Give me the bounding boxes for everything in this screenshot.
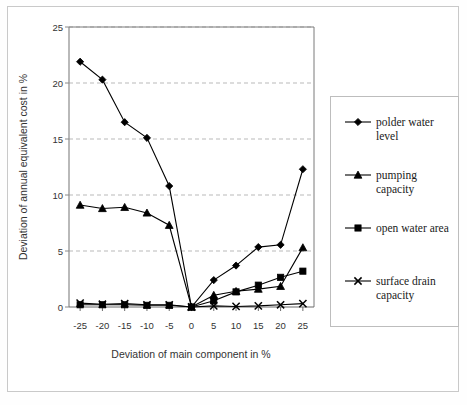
x-tick-label: 5 (211, 320, 216, 331)
legend-item-3[interactable]: surface draincapacity (345, 275, 436, 302)
data-point-diamond (354, 118, 361, 125)
x-tick-label: 15 (253, 320, 264, 331)
legend-entries: polder waterlevelpumpingcapacityopen wat… (345, 116, 449, 302)
x-tick-label: 10 (231, 320, 242, 331)
data-point-diamond (121, 119, 128, 126)
x-tick-label: 20 (275, 320, 286, 331)
legend-label-line2: capacity (376, 289, 415, 302)
x-tick-label: -15 (118, 320, 132, 331)
x-axis-title: Deviation of main component in % (111, 348, 270, 360)
legend-label: polder water (376, 116, 434, 129)
data-point-diamond (143, 134, 150, 141)
data-point-square (277, 274, 283, 280)
y-axis-title: Deviation of annual equivalent cost in % (17, 74, 29, 260)
x-axis-tick-labels: -25-20-15-10-50510152025 (73, 320, 308, 331)
y-tick-label: 10 (52, 190, 63, 201)
legend-label-line2: level (376, 130, 398, 142)
data-point-diamond (299, 166, 306, 173)
data-point-diamond (277, 241, 284, 248)
legend-item-1[interactable]: pumpingcapacity (345, 169, 417, 196)
gridlines (69, 27, 314, 251)
y-tick-label: 20 (52, 78, 63, 89)
series-line (80, 62, 303, 307)
data-point-square (300, 268, 306, 274)
legend-label: pumping (376, 169, 417, 182)
legend-item-2[interactable]: open water area (345, 222, 449, 235)
data-point-diamond (166, 182, 173, 189)
series-line (80, 271, 303, 307)
series-line (80, 205, 303, 307)
figure-container: 0510152025 -25-20-15-10-50510152025 Devi… (0, 0, 467, 405)
x-tick-label: 25 (298, 320, 309, 331)
data-point-triangle (277, 282, 285, 289)
series-0 (77, 58, 307, 310)
data-point-square (355, 225, 361, 231)
data-point-triangle (299, 244, 307, 251)
plot-frame (69, 27, 314, 307)
y-axis-tick-labels: 0510152025 (52, 22, 69, 313)
legend-label-line2: capacity (376, 183, 415, 196)
x-tick-label: -20 (96, 320, 110, 331)
y-tick-label: 5 (58, 246, 63, 257)
x-tick-label: -10 (140, 320, 154, 331)
data-point-square (255, 282, 261, 288)
y-tick-label: 25 (52, 22, 63, 33)
legend-item-0[interactable]: polder waterlevel (345, 116, 434, 142)
series-1 (76, 201, 307, 310)
data-point-triangle (165, 221, 173, 228)
legend-label: surface drain (376, 275, 436, 287)
legend-label: open water area (376, 222, 449, 235)
x-tick-label: -5 (165, 320, 173, 331)
y-tick-label: 0 (58, 302, 63, 313)
x-tick-label: 0 (189, 320, 194, 331)
y-tick-label: 15 (52, 134, 63, 145)
data-point-triangle (76, 201, 84, 208)
line-chart: 0510152025 -25-20-15-10-50510152025 Devi… (0, 0, 467, 405)
x-tick-label: -25 (73, 320, 87, 331)
data-series-group (76, 58, 307, 310)
data-point-square (233, 289, 239, 295)
